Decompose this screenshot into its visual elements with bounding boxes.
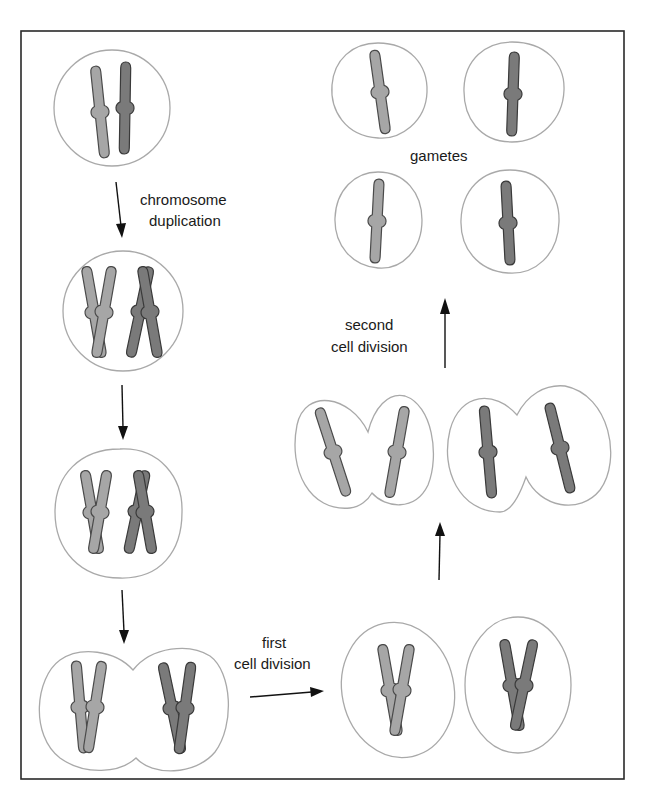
gamete-4: [461, 170, 559, 273]
gamete-2: [464, 42, 564, 142]
arrow-up-2: [440, 298, 450, 368]
arrow-down-1: [116, 182, 126, 238]
label-second-cell-division: second cell division: [331, 316, 408, 355]
gamete-3: [335, 172, 422, 268]
arrow-right: [250, 687, 324, 697]
cell-after-first-division-dark: [465, 617, 571, 753]
arrow-down-2: [118, 385, 128, 440]
duplicated-cell: [63, 251, 183, 371]
cell-after-first-division-light: [329, 612, 467, 768]
parent-cell: [54, 50, 170, 166]
label-first-cell-division: first cell division: [234, 634, 311, 672]
label-chromosome-duplication: chromosome duplication: [140, 191, 231, 229]
gamete-1: [332, 43, 427, 138]
label-gametes: gametes: [410, 147, 468, 164]
second-division-cell-light: [295, 395, 433, 508]
arrow-up-1: [435, 522, 445, 580]
second-division-cell-dark: [447, 386, 610, 512]
arrow-down-3: [119, 590, 129, 644]
paired-cell: [55, 449, 182, 578]
meiosis-diagram: chromosome duplication first cell: [0, 0, 647, 796]
dividing-cell: [39, 648, 228, 770]
